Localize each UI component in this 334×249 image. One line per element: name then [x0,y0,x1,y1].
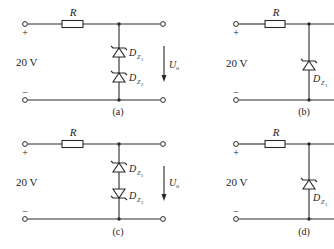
resistor [265,141,285,148]
output-terminal-top [161,142,166,147]
resistor [62,141,83,148]
panel-c: R + − 20 V D Z 1 D Z 2 U o (c) [16,126,179,238]
diode-label-dz1: D Z 1 [312,73,327,88]
resistor-label: R [272,6,280,18]
resistor [265,21,285,28]
resistor [62,21,83,28]
svg-text:D: D [128,47,137,58]
minus-sign: − [22,206,28,217]
zener-diode-icon [111,46,127,57]
zener-diode-icon [111,189,127,200]
diode-label-dz1: D Z 1 [128,47,143,62]
svg-text:o: o [176,65,179,71]
panel-caption: (d) [298,226,310,238]
resistor-label: R [69,126,77,138]
resistor-label: R [272,126,280,138]
input-terminal-negative [23,98,28,103]
junction-dot [117,217,120,220]
output-voltage-label: U o [169,59,179,71]
svg-text:1: 1 [325,202,327,207]
minus-sign: − [233,206,239,217]
source-voltage-label: 20 V [16,176,38,188]
svg-text:D: D [128,163,137,174]
junction-dot [307,98,310,101]
diode-label-dz1: D Z 1 [128,163,143,178]
output-terminal-bottom [161,217,166,222]
svg-text:1: 1 [141,57,143,62]
panel-caption: (b) [298,106,310,118]
plus-sign: + [233,147,239,158]
arrow-head-icon [162,194,167,201]
svg-text:1: 1 [325,83,327,88]
arrow-head-icon [162,75,167,82]
panel-caption: (c) [112,226,123,238]
output-voltage-label: U o [169,177,179,189]
plus-sign: + [233,27,239,38]
junction-dot [117,98,120,101]
diode-label-dz2: D Z 2 [128,190,143,205]
zener-diode-icon [111,71,127,82]
zener-diode-icon [111,161,127,172]
input-terminal-positive [234,22,239,27]
diode-label-dz2: D Z 2 [128,72,143,87]
zener-diode-icon [301,178,317,189]
source-voltage-label: 20 V [226,57,248,69]
source-voltage-label: 20 V [16,56,38,68]
zener-diode-icon [301,59,317,70]
input-terminal-negative [23,217,28,222]
junction-dot [307,217,310,220]
output-terminal-bottom [161,98,166,103]
svg-text:2: 2 [141,200,143,205]
input-terminal-positive [23,142,28,147]
junction-dot [117,22,120,25]
svg-text:o: o [176,183,179,189]
output-terminal-top [161,22,166,27]
input-terminal-positive [23,22,28,27]
panel-b: R + − 20 V D Z 1 (b) [226,6,334,118]
svg-text:D: D [128,72,137,83]
svg-text:2: 2 [141,82,143,87]
circuit-figure: R + − 20 V D Z 1 D Z 2 U o (a) [0,0,334,249]
plus-sign: + [22,147,28,158]
source-voltage-label: 20 V [226,176,248,188]
panel-d: R + − 20 V D Z 1 (d) [226,126,334,238]
junction-dot [307,142,310,145]
input-terminal-negative [234,217,239,222]
junction-dot [117,142,120,145]
minus-sign: − [22,87,28,98]
minus-sign: − [233,87,239,98]
panel-a: R + − 20 V D Z 1 D Z 2 U o (a) [16,6,179,118]
svg-text:1: 1 [141,173,143,178]
svg-text:D: D [128,190,137,201]
junction-dot [307,22,310,25]
plus-sign: + [22,27,28,38]
svg-text:D: D [312,73,321,84]
diode-label-dz1: D Z 1 [312,192,327,207]
svg-text:D: D [312,192,321,203]
panel-caption: (a) [112,106,123,118]
input-terminal-positive [234,142,239,147]
resistor-label: R [69,6,77,18]
input-terminal-negative [234,98,239,103]
